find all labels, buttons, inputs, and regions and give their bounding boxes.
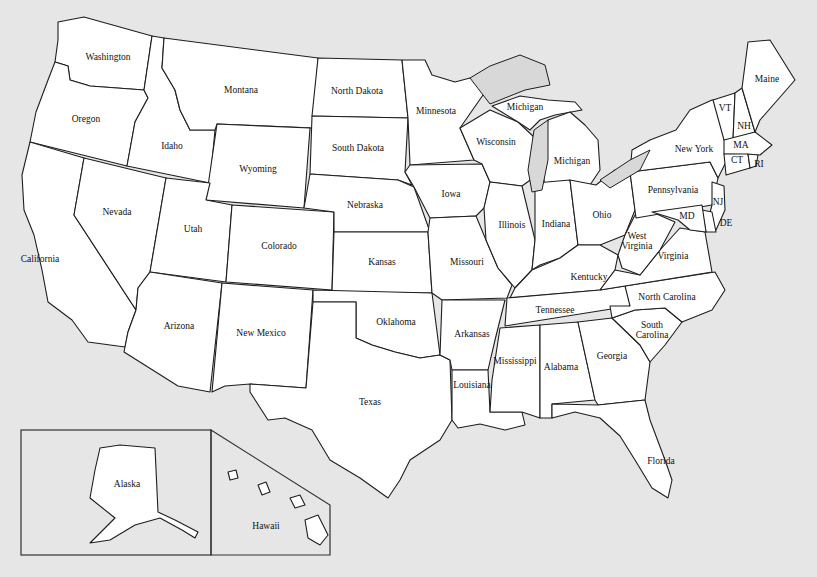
label-alaska: Alaska bbox=[114, 480, 140, 490]
state-arizona[interactable] bbox=[124, 272, 222, 392]
label-georgia: Georgia bbox=[597, 352, 627, 362]
label-oklahoma: Oklahoma bbox=[376, 318, 416, 328]
label-arizona: Arizona bbox=[164, 322, 195, 332]
label-connecticut: CT bbox=[731, 156, 743, 166]
label-oregon: Oregon bbox=[72, 115, 101, 125]
label-north-carolina: North Carolina bbox=[638, 293, 695, 303]
label-new-jersey: NJ bbox=[713, 198, 724, 208]
state-montana[interactable] bbox=[162, 38, 318, 130]
label-texas: Texas bbox=[359, 398, 381, 408]
state-hawaii-kauai[interactable] bbox=[228, 470, 238, 480]
label-minnesota: Minnesota bbox=[416, 107, 456, 117]
label-new-hampshire: NH bbox=[737, 122, 751, 132]
label-missouri: Missouri bbox=[450, 258, 484, 268]
state-florida[interactable] bbox=[552, 400, 672, 498]
label-new-mexico: New Mexico bbox=[236, 329, 285, 339]
label-florida: Florida bbox=[647, 457, 674, 467]
label-hawaii: Hawaii bbox=[252, 522, 279, 532]
label-washington: Washington bbox=[85, 53, 130, 63]
label-north-dakota: North Dakota bbox=[331, 87, 383, 97]
label-virginia: Virginia bbox=[658, 252, 689, 262]
label-montana: Montana bbox=[224, 86, 258, 96]
label-south-dakota: South Dakota bbox=[332, 144, 384, 154]
label-nevada: Nevada bbox=[102, 208, 131, 218]
label-west-virginia-2: Virginia bbox=[622, 242, 653, 252]
state-mississippi[interactable] bbox=[490, 325, 540, 418]
label-michigan-upper: Michigan bbox=[507, 103, 543, 113]
label-mississippi: Mississippi bbox=[493, 357, 536, 367]
label-colorado: Colorado bbox=[261, 242, 296, 252]
state-alaska[interactable] bbox=[90, 445, 198, 543]
label-delaware: DE bbox=[720, 219, 733, 229]
label-kansas: Kansas bbox=[368, 258, 395, 268]
label-indiana: Indiana bbox=[542, 220, 571, 230]
label-alabama: Alabama bbox=[544, 363, 578, 373]
state-new-york[interactable] bbox=[630, 100, 726, 178]
label-rhode-island: RI bbox=[754, 160, 764, 170]
label-tennessee: Tennessee bbox=[536, 306, 575, 316]
us-map bbox=[0, 0, 817, 577]
label-california: California bbox=[21, 255, 60, 265]
label-maryland: MD bbox=[679, 212, 694, 222]
state-hawaii-maui[interactable] bbox=[290, 495, 305, 508]
label-maine: Maine bbox=[755, 75, 779, 85]
label-utah: Utah bbox=[184, 225, 202, 235]
label-iowa: Iowa bbox=[442, 190, 461, 200]
label-wisconsin: Wisconsin bbox=[476, 138, 516, 148]
label-michigan-lower: Michigan bbox=[554, 157, 590, 167]
label-wyoming: Wyoming bbox=[239, 165, 276, 175]
label-idaho: Idaho bbox=[161, 142, 183, 152]
label-pennsylvania: Pennsylvania bbox=[648, 186, 699, 196]
label-illinois: Illinois bbox=[499, 221, 526, 231]
label-new-york: New York bbox=[675, 145, 714, 155]
label-south-carolina-2: Carolina bbox=[636, 331, 669, 341]
label-ohio: Ohio bbox=[593, 211, 612, 221]
label-nebraska: Nebraska bbox=[347, 201, 383, 211]
label-kentucky: Kentucky bbox=[571, 273, 608, 283]
label-vermont: VT bbox=[719, 104, 732, 114]
label-massachusetts: MA bbox=[733, 141, 748, 151]
label-louisiana: Louisiana bbox=[453, 381, 490, 391]
state-michigan-lower[interactable] bbox=[542, 112, 600, 190]
state-hawaii-big[interactable] bbox=[305, 515, 328, 545]
label-arkansas: Arkansas bbox=[454, 330, 489, 340]
state-hawaii-oahu[interactable] bbox=[258, 482, 270, 495]
